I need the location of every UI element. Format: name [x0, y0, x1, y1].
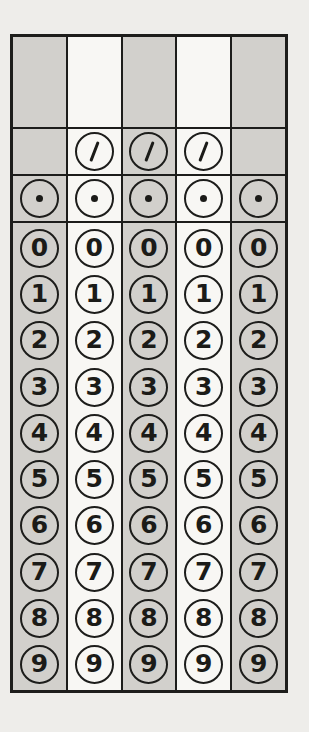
bubble-digit-7[interactable]: 7	[239, 553, 278, 592]
bubble-decimal-point[interactable]	[239, 179, 278, 218]
bubble-digit-1[interactable]: 1	[184, 275, 223, 314]
digit-label: 2	[195, 327, 212, 352]
answer-write-in-box[interactable]	[123, 37, 176, 129]
digit-label: 6	[195, 512, 212, 537]
answer-write-in-box[interactable]	[177, 37, 230, 129]
bubble-digit-0[interactable]: 0	[184, 229, 223, 268]
bubble-decimal-point[interactable]	[75, 179, 114, 218]
bubble-digit-6[interactable]: 6	[239, 506, 278, 545]
answer-write-in-box[interactable]	[68, 37, 121, 129]
bubble-digit-0[interactable]: 0	[75, 229, 114, 268]
bubble-digit-0[interactable]: 0	[129, 229, 168, 268]
bubble-digit-4[interactable]: 4	[75, 414, 114, 453]
digit-slot: 8	[68, 595, 121, 641]
grid-column-3: 0123456789	[123, 37, 178, 690]
digit-label: 0	[195, 235, 212, 260]
bubble-digit-5[interactable]: 5	[129, 460, 168, 499]
digit-label: 6	[140, 512, 157, 537]
bubble-fraction-slash[interactable]	[184, 132, 223, 171]
digit-slot: 9	[232, 642, 285, 688]
digit-label: 7	[250, 559, 267, 584]
bubble-decimal-point[interactable]	[20, 179, 59, 218]
digit-label: 1	[85, 281, 102, 306]
bubble-digit-6[interactable]: 6	[184, 506, 223, 545]
digit-slot: 5	[13, 456, 66, 502]
digit-slot: 3	[68, 364, 121, 410]
bubble-digit-8[interactable]: 8	[239, 599, 278, 638]
bubble-digit-9[interactable]: 9	[184, 645, 223, 684]
digit-label: 7	[195, 559, 212, 584]
digit-label: 8	[140, 605, 157, 630]
bubble-digit-6[interactable]: 6	[129, 506, 168, 545]
bubble-fraction-slash[interactable]	[129, 132, 168, 171]
digit-slot: 1	[177, 271, 230, 317]
grid-column-5: 0123456789	[232, 37, 285, 690]
bubble-digit-3[interactable]: 3	[129, 368, 168, 407]
bubble-digit-2[interactable]: 2	[75, 321, 114, 360]
bubble-fraction-slash[interactable]	[75, 132, 114, 171]
digit-bubbles-cell: 0123456789	[13, 223, 66, 690]
bubble-digit-7[interactable]: 7	[20, 553, 59, 592]
bubble-digit-8[interactable]: 8	[184, 599, 223, 638]
bubble-digit-6[interactable]: 6	[75, 506, 114, 545]
digit-slot: 7	[123, 549, 176, 595]
bubble-digit-1[interactable]: 1	[20, 275, 59, 314]
decimal-point-icon	[145, 195, 152, 202]
digit-label: 1	[195, 281, 212, 306]
bubble-digit-2[interactable]: 2	[20, 321, 59, 360]
bubble-digit-4[interactable]: 4	[239, 414, 278, 453]
digit-slot: 5	[123, 456, 176, 502]
bubble-digit-6[interactable]: 6	[20, 506, 59, 545]
answer-sheet-page: 0123456789012345678901234567890123456789…	[0, 0, 309, 732]
digit-slot: 5	[232, 456, 285, 502]
bubble-digit-4[interactable]: 4	[20, 414, 59, 453]
bubble-digit-1[interactable]: 1	[75, 275, 114, 314]
digit-label: 2	[250, 327, 267, 352]
bubble-digit-1[interactable]: 1	[129, 275, 168, 314]
digit-slot: 2	[232, 318, 285, 364]
bubble-digit-8[interactable]: 8	[129, 599, 168, 638]
digit-slot: 8	[177, 595, 230, 641]
digit-label: 5	[85, 466, 102, 491]
bubble-digit-7[interactable]: 7	[75, 553, 114, 592]
bubble-digit-4[interactable]: 4	[184, 414, 223, 453]
bubble-decimal-point[interactable]	[129, 179, 168, 218]
bubble-digit-5[interactable]: 5	[20, 460, 59, 499]
bubble-digit-7[interactable]: 7	[184, 553, 223, 592]
bubble-digit-4[interactable]: 4	[129, 414, 168, 453]
digit-slot: 3	[123, 364, 176, 410]
digit-slot: 6	[232, 503, 285, 549]
decimal-point-icon	[91, 195, 98, 202]
digit-slot: 2	[123, 318, 176, 364]
bubble-digit-9[interactable]: 9	[239, 645, 278, 684]
bubble-digit-8[interactable]: 8	[20, 599, 59, 638]
bubble-decimal-point[interactable]	[184, 179, 223, 218]
bubble-digit-9[interactable]: 9	[20, 645, 59, 684]
bubble-digit-8[interactable]: 8	[75, 599, 114, 638]
bubble-digit-3[interactable]: 3	[75, 368, 114, 407]
digit-slot: 0	[177, 225, 230, 271]
digit-label: 3	[195, 374, 212, 399]
bubble-digit-3[interactable]: 3	[184, 368, 223, 407]
bubble-digit-3[interactable]: 3	[20, 368, 59, 407]
bubble-digit-7[interactable]: 7	[129, 553, 168, 592]
bubble-digit-5[interactable]: 5	[239, 460, 278, 499]
digit-label: 8	[250, 605, 267, 630]
bubble-digit-0[interactable]: 0	[20, 229, 59, 268]
bubble-digit-1[interactable]: 1	[239, 275, 278, 314]
bubble-digit-2[interactable]: 2	[239, 321, 278, 360]
bubble-digit-0[interactable]: 0	[239, 229, 278, 268]
answer-write-in-box[interactable]	[232, 37, 285, 129]
bubble-digit-2[interactable]: 2	[129, 321, 168, 360]
decimal-point-icon	[255, 195, 262, 202]
digit-label: 4	[140, 420, 157, 445]
bubble-digit-9[interactable]: 9	[129, 645, 168, 684]
digit-label: 0	[250, 235, 267, 260]
bubble-digit-3[interactable]: 3	[239, 368, 278, 407]
bubble-digit-9[interactable]: 9	[75, 645, 114, 684]
bubble-digit-2[interactable]: 2	[184, 321, 223, 360]
bubble-digit-5[interactable]: 5	[75, 460, 114, 499]
bubble-digit-5[interactable]: 5	[184, 460, 223, 499]
answer-write-in-box[interactable]	[13, 37, 66, 129]
digit-label: 5	[250, 466, 267, 491]
